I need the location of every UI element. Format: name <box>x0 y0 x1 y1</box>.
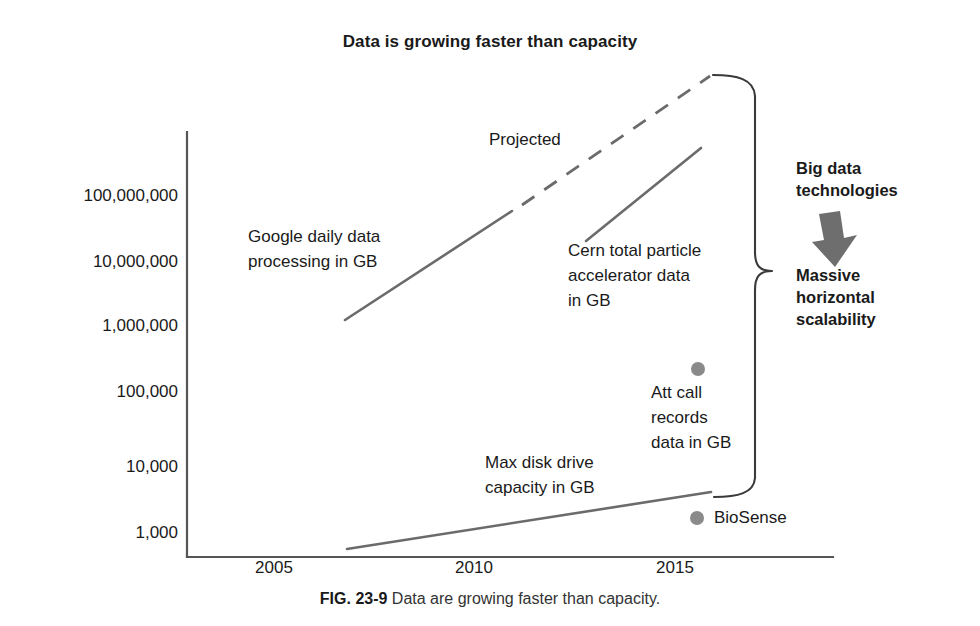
series-label-cern-line2: accelerator data <box>568 266 690 287</box>
series-label-max-disk-line2: capacity in GB <box>485 478 595 499</box>
annotation-projected: Projected <box>489 130 561 151</box>
data-point-att-call-records <box>691 362 705 376</box>
callout-massive-line1: Massive <box>796 265 860 286</box>
series-label-cern-line1: Cern total particle <box>568 241 701 262</box>
callout-big-data-line2: technologies <box>796 180 898 201</box>
callout-big-data-line1: Big data <box>796 158 861 179</box>
figure-caption-body: Data are growing faster than capacity. <box>392 590 660 607</box>
y-axis-tick-10000000: 10,000,000 <box>28 252 178 273</box>
series-label-google-line2: processing in GB <box>248 252 377 273</box>
series-label-att-line3: data in GB <box>651 433 731 454</box>
y-axis-tick-100000: 100,000 <box>28 382 178 403</box>
chart-title: Data is growing faster than capacity <box>0 32 980 53</box>
series-label-att-line2: records <box>651 408 708 429</box>
x-axis-tick-2015: 2015 <box>620 558 730 579</box>
data-point-biosense <box>690 511 704 525</box>
x-axis-tick-2005: 2005 <box>219 558 329 579</box>
series-line-max-disk-drive <box>347 492 711 549</box>
figure-number: FIG. 23-9 <box>320 590 388 607</box>
callout-massive-line3: scalability <box>796 309 876 330</box>
y-axis-tick-100000000: 100,000,000 <box>28 186 178 207</box>
series-label-cern-line3: in GB <box>568 291 611 312</box>
series-label-biosense: BioSense <box>714 508 787 529</box>
x-axis-tick-2010: 2010 <box>419 558 529 579</box>
series-line-cern <box>586 148 701 241</box>
y-axis-tick-1000000: 1,000,000 <box>28 316 178 337</box>
series-label-google-line1: Google daily data <box>248 227 380 248</box>
y-axis-tick-1000: 1,000 <box>28 523 178 544</box>
down-arrow-icon <box>812 211 857 267</box>
figure-container: Data is growing faster than capacity 100… <box>0 0 980 626</box>
callout-massive-line2: horizontal <box>796 287 875 308</box>
series-label-att-line1: Att call <box>651 383 702 404</box>
series-label-max-disk-line1: Max disk drive <box>485 453 594 474</box>
figure-caption: FIG. 23-9 Data are growing faster than c… <box>0 589 980 609</box>
y-axis-tick-10000: 10,000 <box>28 457 178 478</box>
